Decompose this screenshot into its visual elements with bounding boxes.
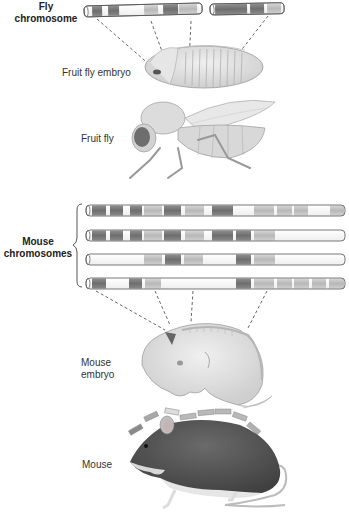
diagram-canvas xyxy=(0,0,349,515)
mouse-chromosomes-brace xyxy=(73,204,82,287)
fly-chromosome-2 xyxy=(210,3,284,15)
fly-chromosome-1 xyxy=(84,3,202,17)
mouse-chromosome-2 xyxy=(86,230,345,241)
fruit-fly-embryo-illustration xyxy=(145,45,263,88)
mouse-mapping-lines xyxy=(96,291,267,330)
mouse-chromosome-1 xyxy=(86,205,345,216)
mouse-embryo-illustration xyxy=(142,324,272,408)
mouse-chromosome-3 xyxy=(86,254,345,265)
fruit-fly-illustration xyxy=(130,100,275,178)
mouse-illustration xyxy=(130,416,286,508)
mouse-chromosome-4 xyxy=(86,278,345,289)
